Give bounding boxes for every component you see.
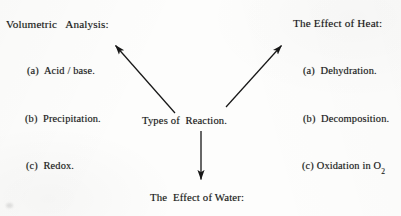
arrow-layer (0, 0, 401, 216)
arrow-to-volumetric-analysis (116, 46, 176, 114)
list-item-heat-c: (c) Oxidation in O2 (302, 161, 385, 174)
list-item-heat-a: (a) Dehydration. (303, 66, 377, 76)
list-item-volumetric-c: (c) Redox. (26, 161, 74, 171)
paper-texture-overlay (0, 0, 401, 216)
subscript-two: 2 (381, 167, 385, 176)
heading-effect-of-water: The Effect of Water: (150, 192, 244, 203)
list-item-volumetric-a: (a) Acid / base. (27, 66, 95, 76)
diagram-canvas: Volumetric Analysis: (a) Acid / base. (b… (0, 0, 401, 216)
scan-smudge-mark (6, 203, 13, 208)
list-item-volumetric-b: (b) Precipitation. (25, 114, 101, 124)
list-item-heat-b: (b) Decomposition. (303, 114, 389, 124)
heading-effect-of-heat: The Effect of Heat: (293, 18, 382, 29)
center-label-types-of-reaction: Types of Reaction. (142, 116, 227, 127)
list-item-heat-c-text: (c) Oxidation in O (302, 160, 381, 171)
arrow-to-effect-of-heat (226, 46, 282, 108)
heading-volumetric-analysis: Volumetric Analysis: (6, 19, 109, 30)
